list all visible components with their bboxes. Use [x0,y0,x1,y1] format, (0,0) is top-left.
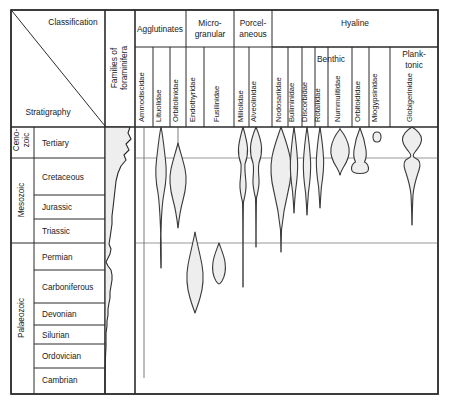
period-label-cambrian: Cambrian [42,376,78,385]
group-header-porcellaneous-line1: Porcel- [240,18,267,28]
group-header-microgranular-line1: Micro- [198,18,221,28]
family-label-nodosariidae: Nodosariidae [274,77,283,122]
family-label-discorbidae: Discorbidae [300,82,309,122]
family-label-miliolidae: Miliolidae [236,90,245,122]
family-label-alveolinidae: Alveolinidae [249,81,258,122]
era-label-palaeozoic: Palaeozoic [17,298,26,338]
curve-column-label-line2: foraminifera [119,46,129,91]
period-label-ordovician: Ordovician [42,352,82,361]
foraminifera-range-chart: Classification Stratigraphy Families of … [0,0,449,401]
era-label-mesozoic: Mesozoic [17,183,26,218]
family-label-miogypsinidae: Miogypsinidae [370,73,379,122]
spindle-miogypsinidae [373,132,381,142]
family-label-endothyridae: Endothyridae [188,77,197,122]
family-name-labels: Ammodiscidae Lituolidae Orbitolinidae En… [137,72,414,122]
group-header-planktonic-line1: Plank- [402,49,426,59]
period-label-jurassic: Jurassic [42,203,72,212]
era-label-cenozoic-line1: Ceno- [12,129,21,152]
family-label-globigerinidae: Globigerinidae [405,73,414,122]
family-label-nummulitidae: Nummulitidae [333,76,342,122]
group-header-benthic: Benthic [317,54,345,64]
chart-svg: Classification Stratigraphy Families of … [0,0,449,401]
period-label-permian: Permian [42,253,73,262]
era-label-cenozoic-line2: zoic [22,133,31,148]
corner-classification-label: Classification [48,17,98,27]
period-label-carboniferous: Carboniferous [42,283,93,292]
group-header-planktonic-line2: tonic [405,60,423,70]
family-label-buliminidae: Buliminidae [287,83,296,122]
corner-stratigraphy-label: Stratigraphy [25,107,71,117]
family-label-ammodiscidae: Ammodiscidae [137,72,146,122]
family-label-lituolidae: Lituolidae [154,89,163,122]
period-label-silurian: Silurian [42,331,70,340]
family-label-rotaliidae: Rotaliidae [313,88,322,122]
period-label-cretaceous: Cretaceous [42,173,84,182]
period-label-tertiary: Tertiary [42,139,70,148]
curve-column-label-line1: Families of [109,47,119,88]
group-header-agglutinates: Agglutinates [137,24,183,34]
family-label-orbitolinidae: Orbitolinidae [171,79,180,122]
group-header-hyaline: Hyaline [341,18,369,28]
family-label-fusilinidae: Fusilinidae [212,86,221,122]
canvas-background [0,0,449,401]
group-header-porcellaneous-line2: aneous [239,29,266,39]
period-label-devonian: Devonian [42,310,77,319]
period-label-triassic: Triassic [42,227,70,236]
family-label-orbitoididae: Orbitoididae [353,81,362,122]
group-header-microgranular-line2: granular [195,29,226,39]
